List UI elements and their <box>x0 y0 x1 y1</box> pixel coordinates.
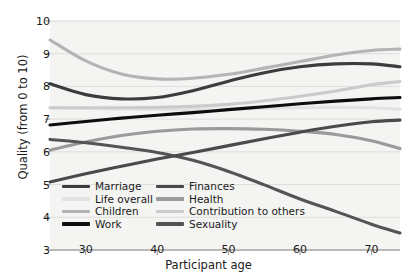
legend-swatch-icon <box>62 185 90 188</box>
x-tick-label: 30 <box>69 243 103 256</box>
legend-swatch-icon <box>156 210 184 213</box>
y-tick-label: 10 <box>28 15 50 28</box>
legend-label: Work <box>95 219 122 230</box>
legend-swatch-icon <box>156 185 184 188</box>
x-axis-title: Participant age <box>0 258 417 272</box>
y-tick-label: 5 <box>28 178 50 191</box>
plot-area <box>0 0 417 277</box>
legend-swatch-icon <box>62 210 90 213</box>
x-tick-label: 60 <box>283 243 317 256</box>
legend-entry-sexuality[interactable]: Sexuality <box>156 219 266 230</box>
y-tick-label: 9 <box>28 47 50 60</box>
legend-swatch-icon <box>156 222 184 225</box>
legend-label: Contribution to others <box>189 206 305 217</box>
legend-label: Sexuality <box>189 219 237 230</box>
x-tick-label: 40 <box>140 243 174 256</box>
x-tick-label: 50 <box>212 243 246 256</box>
y-tick-label: 8 <box>28 80 50 93</box>
x-tick-label: 70 <box>354 243 388 256</box>
legend-entry-finances[interactable]: Finances <box>156 181 266 192</box>
y-axis-title: Quality (from 0 to 10) <box>16 32 30 202</box>
chart-legend: MarriageFinancesLife overallHealthChildr… <box>62 180 332 230</box>
legend-entry-health[interactable]: Health <box>156 194 266 205</box>
line-chart: 109876543 3040506070 Quality (from 0 to … <box>0 0 417 277</box>
legend-entry-life-overall[interactable]: Life overall <box>62 194 148 205</box>
y-tick-label: 4 <box>28 211 50 224</box>
legend-label: Health <box>189 194 223 205</box>
legend-swatch-icon <box>62 222 90 225</box>
legend-entry-children[interactable]: Children <box>62 206 148 217</box>
legend-swatch-icon <box>156 197 184 200</box>
y-tick-label: 6 <box>28 145 50 158</box>
legend-label: Children <box>95 206 139 217</box>
legend-label: Life overall <box>95 194 153 205</box>
legend-swatch-icon <box>62 197 90 200</box>
legend-entry-work[interactable]: Work <box>62 219 148 230</box>
legend-label: Finances <box>189 181 235 192</box>
y-tick-label: 7 <box>28 113 50 126</box>
legend-label: Marriage <box>95 181 141 192</box>
x-axis-tick-labels: 3040506070 <box>0 243 417 259</box>
legend-entry-marriage[interactable]: Marriage <box>62 181 148 192</box>
legend-entry-contribution-to-others[interactable]: Contribution to others <box>156 206 266 217</box>
